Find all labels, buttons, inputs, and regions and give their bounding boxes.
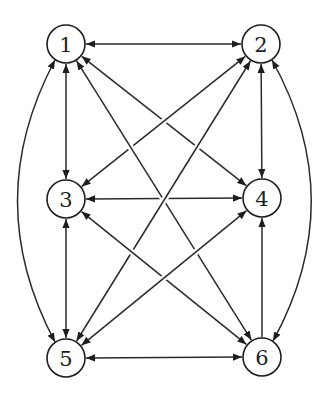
node-2: 2 xyxy=(242,25,280,63)
node-2-label: 2 xyxy=(254,33,267,57)
node-5: 5 xyxy=(47,339,85,377)
node-4-label: 4 xyxy=(255,187,268,211)
node-3-label: 3 xyxy=(59,188,72,212)
node-6-label: 6 xyxy=(255,346,268,370)
node-5-label: 5 xyxy=(59,347,72,371)
edge-2-4 xyxy=(261,64,262,178)
node-1-label: 1 xyxy=(59,33,72,57)
node-1: 1 xyxy=(47,25,85,63)
node-6: 6 xyxy=(243,338,281,376)
edge-5-6 xyxy=(86,357,242,358)
graph-diagram: 1 2 3 4 5 6 xyxy=(0,0,316,398)
node-3: 3 xyxy=(47,180,85,218)
node-4: 4 xyxy=(243,179,281,217)
